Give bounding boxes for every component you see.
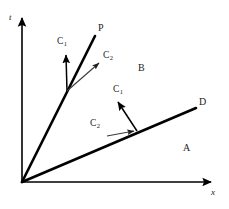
vector-label-subscript: 2	[97, 122, 100, 129]
vector-c-upper-diagonal-label: C2	[103, 51, 113, 61]
ray-p-line	[22, 36, 95, 182]
vector-label-base: C	[57, 36, 63, 46]
ray-p-label: P	[98, 23, 104, 33]
diagram-canvas	[0, 0, 229, 209]
vector-c-lower-diagonal-label: C1	[113, 85, 123, 95]
region-b-label: B	[138, 63, 145, 73]
vector-label-base: C	[113, 84, 119, 94]
ray-d-label: D	[199, 97, 206, 107]
vector-label-subscript: 1	[64, 40, 67, 47]
vector-c-upper-diagonal-shaft	[67, 63, 99, 91]
vector-c-lower-horizontal-label: C2	[90, 119, 100, 129]
vector-label-base: C	[90, 118, 96, 128]
vector-label-base: C	[103, 50, 109, 60]
vector-c-upper-vertical-label: C1	[57, 37, 67, 47]
region-a-label: A	[183, 143, 190, 153]
ray-d-line	[22, 108, 196, 182]
vector-label-subscript: 2	[110, 54, 113, 61]
vector-c-lower-diagonal-shaft	[118, 102, 137, 131]
spacetime-diagram: t x P D B A C1 C2 C1 C2	[0, 0, 229, 209]
vector-c-upper-vertical-shaft	[66, 55, 67, 91]
vector-label-subscript: 1	[120, 88, 123, 95]
x-axis-label: x	[211, 188, 215, 197]
t-axis-label: t	[9, 13, 12, 22]
